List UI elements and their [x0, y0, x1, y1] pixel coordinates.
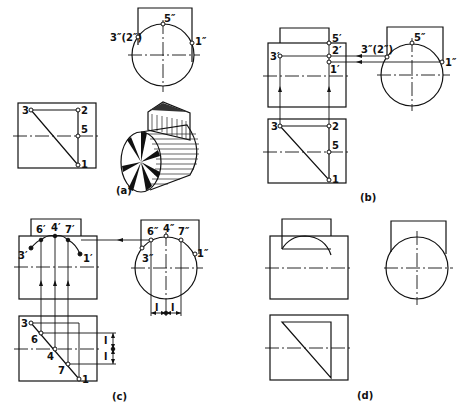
- panel-d: (d): [265, 219, 453, 401]
- label-3-c: 3: [21, 318, 28, 329]
- label-4pp: 4″: [163, 223, 175, 234]
- label-7p: 7′: [65, 224, 75, 235]
- label-1pp: 1″: [195, 36, 207, 47]
- label-1: 1: [81, 159, 88, 170]
- label-5-b: 5: [332, 140, 339, 151]
- label-1p-c: 1′: [83, 253, 93, 264]
- panel-d-front-view: [265, 219, 352, 299]
- label-5pp: 5″: [164, 13, 176, 24]
- label-6p: 6′: [36, 224, 46, 235]
- caption-a: (a): [116, 185, 132, 196]
- dim-l-top: l: [104, 335, 107, 346]
- panel-d-top-view: [265, 315, 352, 380]
- label-2-b: 2: [332, 121, 339, 132]
- label-7pp: 7″: [178, 226, 190, 237]
- label-7-c: 7: [58, 365, 65, 376]
- label-2p: 2′: [332, 45, 342, 56]
- caption-d: (d): [357, 390, 373, 401]
- label-3p-c: 3′: [18, 250, 28, 261]
- panel-b-top-view: 3 2 5 1: [263, 119, 350, 185]
- dim-l-bottom: l: [104, 351, 107, 362]
- panel-c: 6′ 4′ 7′ 3′ 1′ l l 6″ 4: [14, 219, 209, 402]
- panel-a: 5″ 3″(2″) 1″ 3 2 5 1: [13, 8, 207, 196]
- label-3pp-2pp: 3″(2″): [110, 32, 142, 43]
- label-5pp-b: 5″: [414, 32, 426, 43]
- panel-d-side-view: [384, 221, 453, 305]
- panel-c-side-view: l l 6″ 4″ 7″ 3″ 1″: [131, 220, 209, 316]
- dim-l-left: l: [155, 302, 158, 313]
- label-3pp-2pp-b: 3″(2″): [361, 44, 393, 55]
- caption-b: (b): [360, 192, 376, 203]
- label-1pp-b: 1″: [445, 57, 457, 68]
- panel-a-top-view: 3 2 5 1: [13, 103, 100, 170]
- panel-a-isometric-cylinder: [121, 102, 199, 192]
- dim-l-right: l: [171, 302, 174, 313]
- label-1-b: 1: [332, 174, 339, 185]
- label-3pp-c: 3″: [142, 253, 154, 264]
- section-diagram: 5″ 3″(2″) 1″ 3 2 5 1: [0, 0, 460, 410]
- label-6-c: 6: [31, 334, 38, 345]
- label-4p: 4′: [51, 222, 61, 233]
- panel-a-side-view: 5″ 3″(2″) 1″: [110, 8, 207, 92]
- label-1pp-c: 1″: [197, 248, 209, 259]
- label-3p: 3′: [270, 51, 280, 62]
- panel-c-top-view: l l 3 6 4 7 1: [14, 316, 116, 385]
- label-1-c: 1: [82, 374, 89, 385]
- label-6pp: 6″: [147, 226, 159, 237]
- panel-b-side-view: 3″(2″) 5″ 1″: [361, 27, 457, 111]
- label-1p: 1′: [330, 64, 340, 75]
- caption-c: (c): [112, 391, 127, 402]
- label-2: 2: [81, 105, 88, 116]
- label-3: 3: [22, 105, 29, 116]
- label-3-b: 3: [271, 121, 278, 132]
- label-5p: 5′: [332, 33, 342, 44]
- label-4-c: 4: [47, 351, 54, 362]
- label-5: 5: [81, 124, 88, 135]
- panel-b: 5′ 3′ 2′ 1′ 3″(2″) 5″ 1″ 3 2: [263, 27, 457, 203]
